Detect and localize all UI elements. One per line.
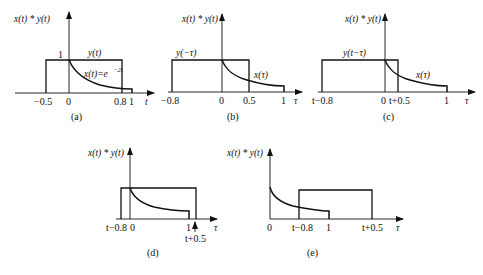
y-axis-label: x(t) * y(t) [181,14,218,25]
tick-label: −0.5 [34,96,52,107]
curve-label: x(t)=e [83,69,108,80]
tick-label: t−0.8 [292,222,313,233]
tick-label: 1 [281,95,286,106]
height-label: 1 [58,49,63,60]
curve-label: x(τ) [415,70,430,81]
tick-label: −0.8 [161,95,179,106]
tick-label: 1 [444,95,449,106]
tick-label: 0 [267,222,272,233]
tick-label: t−0.8 [312,95,333,106]
convolution-diagram: x(t) * y(t) 1 y(t) x(t)=e −2t −0.5 0 0.8… [0,0,483,275]
tick-label: t+0.5 [362,222,383,233]
tick-label: 1 [129,96,134,107]
curve-x-tau [130,188,189,219]
tick-label: 0 [130,222,135,233]
panel-a: x(t) * y(t) 1 y(t) x(t)=e −2t −0.5 0 0.8… [13,12,154,123]
caption: (a) [71,111,82,123]
y-axis-label: x(t) * y(t) [13,14,50,25]
rect-label: y(t−τ) [342,48,366,59]
rect-y-t-minus-tau [299,190,372,219]
x-axis-var: τ [294,96,298,106]
x-axis-var: t [145,97,148,107]
panel-d: x(t) * y(t) t−0.8 0 1 t+0.5 τ (d) [87,148,218,259]
rect-label: y(t) [87,48,101,59]
panel-e: x(t) * y(t) 0 t−0.8 1 t+0.5 τ (e) [226,148,403,259]
caption: (e) [307,247,318,259]
curve-label: x(τ) [253,70,268,81]
tick-label: t+0.5 [389,95,410,106]
tick-label: 0 [66,96,71,107]
y-axis-label: x(t) * y(t) [87,148,124,159]
tick-label: t−0.8 [106,222,127,233]
caption: (d) [147,247,159,259]
tick-label: 1 [326,222,331,233]
x-axis-var: τ [465,96,469,106]
y-axis-label: x(t) * y(t) [226,148,263,159]
panel-c: x(t) * y(t) y(t−τ) x(τ) t−0.8 0 t+0.5 1 … [312,14,475,123]
caption: (c) [383,111,394,123]
panel-b: x(t) * y(t) y(−τ) x(τ) −0.8 0 0.5 1 τ (b… [161,14,302,123]
caption: (b) [227,111,239,123]
x-axis-var: τ [214,223,218,233]
curve-x-tau [222,60,284,92]
rect-label: y(−τ) [175,48,196,59]
x-axis-var: τ [396,223,400,233]
tick-label: t+0.5 [185,233,206,244]
tick-label: 0.8 [114,96,127,107]
y-axis-label: x(t) * y(t) [344,14,381,25]
curve-label-exponent: −2t [113,66,123,73]
tick-label: 0 [219,95,224,106]
tick-label: 0 [381,95,386,106]
tick-label: 0.5 [243,95,256,106]
tick-label: 1 [186,222,191,233]
